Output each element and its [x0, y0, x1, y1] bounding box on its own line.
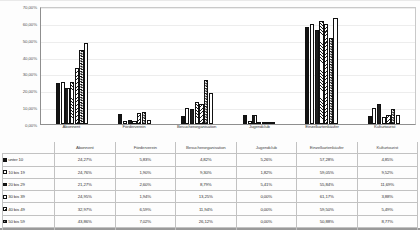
legend-entry: 40 bis 49: [3, 203, 55, 215]
table-cell-value: 9,52%: [357, 166, 418, 178]
table-cell-value: 0,00%: [236, 191, 297, 203]
table-row: ab 6047,79%2,65%18,57%0,00%62,83%5,31%: [3, 228, 418, 230]
table-column-header: Förderverein: [115, 142, 176, 154]
bar-cluster: [103, 8, 165, 124]
legend-label: unter 10: [8, 157, 23, 162]
bar-cluster: [41, 8, 103, 124]
bar-cluster: [353, 8, 415, 124]
table-cell-value: 0,00%: [236, 215, 297, 227]
bar-cluster: [290, 8, 352, 124]
y-axis-tick-label: 70,00%: [23, 5, 37, 10]
table-cell-value: 59,50%: [297, 203, 358, 215]
bar: [305, 27, 309, 124]
legend-swatch-icon: [3, 158, 7, 162]
category-label: Förderverein: [103, 120, 166, 133]
plot-canvas: [40, 7, 416, 125]
table-cell-value: 24,27%: [55, 154, 116, 166]
table-cell-value: 43,86%: [55, 215, 116, 227]
table-cell-value: 21,27%: [55, 178, 116, 190]
table-cell-value: 6,59%: [115, 203, 176, 215]
table-cell-value: 18,57%: [176, 228, 237, 230]
bar: [61, 82, 65, 124]
table-cell-value: 5,83%: [115, 154, 176, 166]
table-cell-value: 8,77%: [357, 215, 418, 227]
table-column-header: Besucherorganisation: [176, 142, 237, 154]
table-cell-value: 5,41%: [236, 178, 297, 190]
table-cell-value: 5,49%: [357, 203, 418, 215]
category-label: Abonnent: [40, 120, 103, 133]
table-column-header: Einzelkartenkäufer: [297, 142, 358, 154]
table-cell-value: 62,83%: [297, 228, 358, 230]
legend-entry: 50 bis 59: [3, 215, 55, 227]
bar-cluster: [166, 8, 228, 124]
legend-swatch-icon: [3, 170, 7, 174]
chart-screenshot: 0,00%10,00%20,00%30,00%40,00%50,00%60,00…: [0, 0, 420, 230]
table-cell-value: 61,17%: [297, 191, 358, 203]
table-row: 20 bis 2921,27%2,60%8,79%5,41%55,84%11,6…: [3, 178, 418, 190]
category-label: Jugendclub: [228, 120, 291, 133]
legend-entry: unter 10: [3, 154, 55, 166]
table-column-header: Abonnent: [55, 142, 116, 154]
bar: [65, 88, 69, 124]
bar: [75, 68, 79, 124]
table-cell-value: 4,85%: [357, 154, 418, 166]
legend-label: 50 bis 59: [8, 219, 25, 224]
legend-label: 30 bis 39: [8, 194, 25, 199]
y-axis-tick-label: 10,00%: [23, 106, 37, 111]
data-table: AbonnentFördervereinBesucherorganisation…: [2, 142, 418, 230]
table-cell-value: 9,30%: [176, 166, 237, 178]
table-cell-value: 55,84%: [297, 178, 358, 190]
table-cell-value: 47,79%: [55, 228, 116, 230]
bar: [310, 24, 314, 124]
category-label: Kulturtourist: [353, 120, 416, 133]
y-axis: 0,00%10,00%20,00%30,00%40,00%50,00%60,00…: [0, 7, 40, 125]
table-header-row: AbonnentFördervereinBesucherorganisation…: [3, 142, 418, 154]
legend-swatch-icon: [3, 195, 7, 199]
table-cell-value: 24,76%: [55, 166, 116, 178]
table-cell-value: 0,00%: [236, 228, 297, 230]
table-column-header: Jugendclub: [236, 142, 297, 154]
category-label: Einzelkartenkäufer: [291, 120, 354, 133]
category-axis-labels: AbonnentFördervereinBesucherorganisation…: [40, 120, 416, 133]
y-axis-tick-label: 20,00%: [23, 89, 37, 94]
table-row: unter 1024,27%5,83%4,82%5,26%57,28%4,85%: [3, 154, 418, 166]
y-axis-tick-label: 50,00%: [23, 38, 37, 43]
bar: [84, 43, 88, 124]
legend-swatch-icon: [3, 220, 7, 224]
table-row: 30 bis 3924,95%1,94%13,25%0,00%61,17%3,8…: [3, 191, 418, 203]
y-axis-tick-label: 30,00%: [23, 72, 37, 77]
table-cell-value: 3,88%: [357, 191, 418, 203]
table-cell-value: 8,79%: [176, 178, 237, 190]
table-cell-value: 24,95%: [55, 191, 116, 203]
table-cell-value: 32,97%: [55, 203, 116, 215]
table-cell-value: 5,26%: [236, 154, 297, 166]
legend-entry: 30 bis 39: [3, 191, 55, 203]
bar: [333, 18, 337, 124]
legend-label: 20 bis 29: [8, 182, 25, 187]
table-cell-value: 11,69%: [357, 178, 418, 190]
table-row: 10 bis 1924,76%1,90%9,30%1,82%59,05%9,52…: [3, 166, 418, 178]
bar: [315, 30, 319, 124]
legend-entry: ab 60: [3, 228, 55, 230]
bar-clusters: [41, 8, 415, 124]
bar: [204, 80, 208, 124]
table-cell-value: 26,12%: [176, 215, 237, 227]
category-label: Besucherorganisation: [165, 120, 228, 133]
table-cell-value: 2,65%: [115, 228, 176, 230]
legend-swatch-icon: [3, 183, 7, 187]
legend-entry: 20 bis 29: [3, 178, 55, 190]
y-axis-tick-label: 0,00%: [25, 123, 37, 128]
y-axis-tick-label: 40,00%: [23, 55, 37, 60]
legend-label: 10 bis 19: [8, 170, 25, 175]
bar: [329, 38, 333, 124]
table-cell-value: 13,25%: [176, 191, 237, 203]
bar: [56, 83, 60, 124]
table-cell-value: 4,82%: [176, 154, 237, 166]
legend-label: 40 bis 49: [8, 207, 25, 212]
table-cell-value: 1,94%: [115, 191, 176, 203]
table-cell-value: 11,94%: [176, 203, 237, 215]
table-row: 40 bis 4932,97%6,59%11,94%0,00%59,50%5,4…: [3, 203, 418, 215]
table-cell-value: 1,90%: [115, 166, 176, 178]
table-cell-value: 59,05%: [297, 166, 358, 178]
table-cell-value: 2,60%: [115, 178, 176, 190]
